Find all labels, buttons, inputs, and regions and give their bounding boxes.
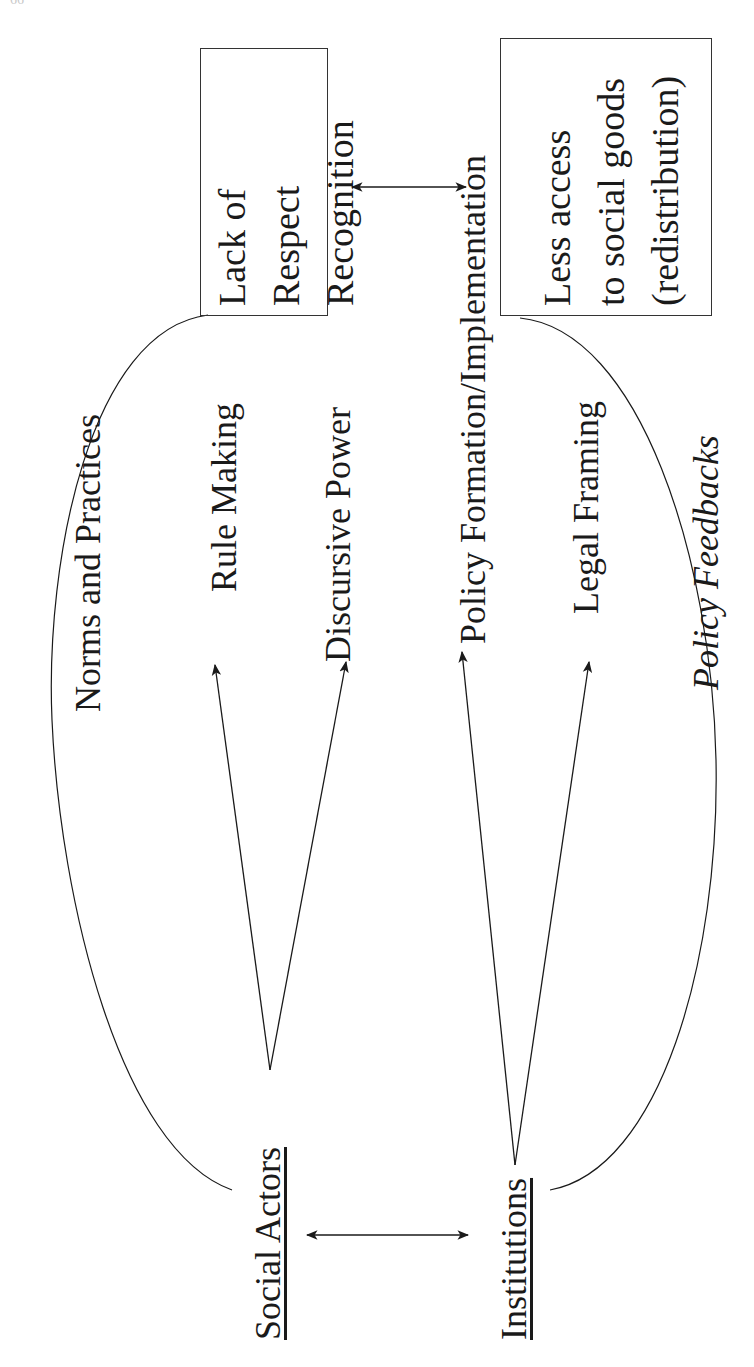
recognition-line-2: Respect xyxy=(259,51,313,306)
recognition-line-1: Lack of xyxy=(205,51,259,306)
recognition-line-3: Recognition xyxy=(313,51,367,306)
discursive-power-label: Discursive Power xyxy=(320,407,356,662)
institutions-node: Institutions xyxy=(496,1178,532,1340)
arrow-to-legal-framing xyxy=(515,662,589,1165)
arrow-to-rule-making xyxy=(215,665,270,1070)
rule-making-label: Rule Making xyxy=(206,403,242,592)
diagram-canvas: 66 Lack of Respect Recognition Less acce… xyxy=(0,0,754,1367)
social-actors-node: Social Actors xyxy=(250,1147,286,1340)
policy-formation-label: Policy Formation/Implementation xyxy=(455,155,491,644)
redistribution-line-3: (redistribution) xyxy=(638,41,692,306)
redistribution-line-1: Less access xyxy=(530,41,584,306)
legal-framing-label: Legal Framing xyxy=(568,401,604,614)
recognition-box-text: Lack of Respect Recognition xyxy=(205,51,367,306)
redistribution-box-text: Less access to social goods (redistribut… xyxy=(530,41,692,306)
arrow-to-discursive-power xyxy=(270,662,346,1070)
redistribution-line-2: to social goods xyxy=(584,41,638,306)
arrow-to-policy-formation xyxy=(462,652,515,1165)
policy-feedbacks-label: Policy Feedbacks xyxy=(688,435,724,690)
norms-and-practices-label: Norms and Practices xyxy=(70,414,106,712)
